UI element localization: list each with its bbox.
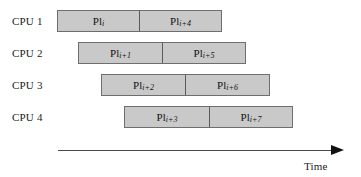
task-block-cpu1-1[interactable]: Pli [58,11,139,31]
time-axis-line [58,150,331,151]
task-label-base: Pl [170,16,179,27]
cpu-label-4: CPU 4 [12,111,43,123]
cpu-timeline-bar-4: Pli+3Pli+7 [124,106,293,128]
task-label-subscript: i+1 [119,51,131,60]
task-block-cpu4-1[interactable]: Pli+3 [125,107,209,127]
cpu-timeline-bar-1: PliPli+4 [57,10,222,32]
task-label-subscript: i [102,19,104,28]
cpu-timeline-bar-3: Pli+2Pli+6 [101,74,270,96]
task-label-subscript: i+3 [166,115,178,124]
task-block-cpu1-2[interactable]: Pli+4 [139,11,221,31]
cpu-timeline-bar-2: Pli+1Pli+5 [78,42,246,64]
cpu-label-2: CPU 2 [12,47,43,59]
task-label-subscript: i+2 [142,83,154,92]
task-label-base: Pl [93,16,102,27]
gantt-figure: CPU 1PliPli+4CPU 2Pli+1Pli+5CPU 3Pli+2Pl… [0,0,361,177]
task-label-subscript: i+5 [203,51,215,60]
task-block-cpu3-1[interactable]: Pli+2 [102,75,185,95]
task-block-cpu4-2[interactable]: Pli+7 [209,107,292,127]
time-axis-arrow-icon [331,145,344,155]
task-label-base: Pl [241,112,250,123]
task-label-subscript: i+6 [226,83,238,92]
task-block-cpu2-1[interactable]: Pli+1 [79,43,162,63]
task-label-base: Pl [217,80,226,91]
task-block-cpu3-2[interactable]: Pli+6 [185,75,269,95]
task-label-base: Pl [110,48,119,59]
task-label-base: Pl [157,112,166,123]
cpu-label-3: CPU 3 [12,79,43,91]
task-label-base: Pl [133,80,142,91]
task-label-base: Pl [194,48,203,59]
task-label-subscript: i+4 [179,19,191,28]
task-block-cpu2-2[interactable]: Pli+5 [162,43,245,63]
time-axis-label: Time [304,160,328,172]
task-label-subscript: i+7 [250,115,262,124]
cpu-label-1: CPU 1 [12,15,43,27]
